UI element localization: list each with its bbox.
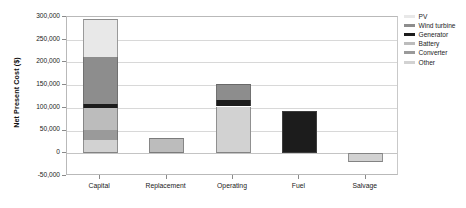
legend-swatch-icon [404, 51, 415, 54]
x-axis-tick [166, 175, 167, 179]
bar-salvage[interactable] [348, 17, 383, 176]
x-axis-tick-label-salvage: Salvage [330, 182, 400, 189]
x-axis-tick [232, 175, 233, 179]
x-axis-tick-label-replacement: Replacement [131, 182, 201, 189]
bar-replacement[interactable] [149, 17, 184, 176]
bar-segment-other[interactable] [216, 107, 251, 154]
y-axis-tick-label: 150,000 [0, 80, 60, 87]
bar-segment-battery[interactable] [83, 108, 118, 130]
y-axis-tick-label: 200,000 [0, 57, 60, 64]
y-axis-title: Net Present Cost ($) [12, 33, 21, 153]
legend-label: Converter [419, 48, 448, 57]
legend-label: PV [419, 12, 428, 21]
legend-item-other[interactable]: Other [404, 57, 466, 66]
x-axis-tick [365, 175, 366, 179]
x-axis-tick-label-fuel: Fuel [263, 182, 333, 189]
y-axis-tick-label: 0 [0, 148, 60, 155]
y-axis-tick-label: 50,000 [0, 125, 60, 132]
chart-legend: PVWind turbineGeneratorBatteryConverterO… [404, 12, 466, 67]
net-present-cost-chart: Net Present Cost ($) -50,000050,000100,0… [0, 0, 466, 208]
x-axis-tick [298, 175, 299, 179]
legend-label: Generator [419, 30, 449, 39]
bar-segment-pv[interactable] [83, 19, 118, 57]
bar-segment-generator[interactable] [282, 111, 317, 153]
bar-segment-wind-turbine[interactable] [216, 84, 251, 100]
legend-swatch-icon [404, 24, 415, 27]
legend-item-wind-turbine[interactable]: Wind turbine [404, 21, 466, 30]
bar-operating[interactable] [216, 17, 251, 176]
y-axis-tick [62, 175, 66, 176]
bar-segment-other[interactable] [83, 140, 118, 154]
y-axis-tick-label: 100,000 [0, 103, 60, 110]
plot-area [66, 16, 398, 175]
legend-item-pv[interactable]: PV [404, 12, 466, 21]
legend-swatch-icon [404, 33, 415, 36]
legend-swatch-icon [404, 42, 415, 45]
bar-segment-wind-turbine[interactable] [83, 57, 118, 104]
legend-label: Battery [419, 39, 440, 48]
bar-segment-generator[interactable] [216, 100, 251, 106]
bar-segment-generator[interactable] [83, 104, 118, 108]
legend-swatch-icon [404, 61, 415, 64]
y-axis-tick-label: 250,000 [0, 35, 60, 42]
bar-segment-other[interactable] [348, 153, 383, 162]
x-axis-tick [99, 175, 100, 179]
bar-segment-battery[interactable] [149, 138, 184, 153]
x-axis-tick-label-operating: Operating [197, 182, 267, 189]
x-axis-tick-label-capital: Capital [64, 182, 134, 189]
legend-swatch-icon [404, 15, 415, 18]
bar-segment-converter[interactable] [83, 130, 118, 140]
legend-label: Other [419, 58, 436, 67]
bar-fuel[interactable] [282, 17, 317, 176]
legend-item-generator[interactable]: Generator [404, 30, 466, 39]
legend-item-converter[interactable]: Converter [404, 48, 466, 57]
legend-label: Wind turbine [419, 21, 456, 30]
y-axis-tick-label: 300,000 [0, 12, 60, 19]
legend-item-battery[interactable]: Battery [404, 39, 466, 48]
y-axis-tick-label: -50,000 [0, 171, 60, 178]
bar-capital[interactable] [83, 17, 118, 176]
